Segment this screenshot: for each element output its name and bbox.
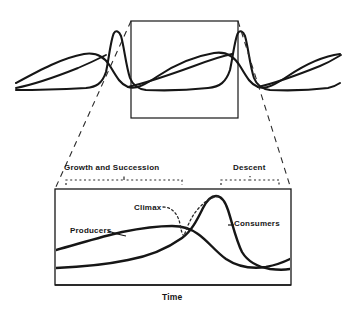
overview-consumers-curve (16, 31, 340, 90)
axis-label-time: Time (162, 292, 183, 302)
overview-producers-curve (16, 53, 340, 88)
figure-canvas (0, 0, 353, 319)
detail-panel (55, 189, 291, 285)
overview-oscillation-panel (16, 21, 341, 118)
ecosystem-cycle-figure: Growth and Succession Descent Climax Pro… (0, 0, 353, 319)
overview-secondary-trend (128, 54, 232, 87)
phase-brackets (66, 176, 279, 185)
growth-phase-bracket (66, 176, 182, 185)
label-descent: Descent (233, 163, 266, 172)
label-consumers: Consumers (234, 219, 280, 228)
overview-secondary-trend-2 (258, 55, 341, 87)
label-producers: Producers (70, 226, 111, 235)
detail-panel-frame (55, 189, 291, 285)
label-climax: Climax (134, 203, 161, 212)
descent-phase-bracket (221, 176, 279, 185)
label-growth-and-succession: Growth and Succession (64, 163, 159, 172)
